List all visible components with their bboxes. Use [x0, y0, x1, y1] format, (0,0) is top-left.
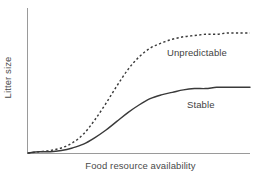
- y-axis-title: Litter size: [0, 0, 16, 155]
- chart-plot-area: [0, 0, 255, 180]
- y-axis-title-text: Litter size: [3, 57, 14, 99]
- curve-stable: [28, 87, 250, 153]
- x-axis-title: Food resource availability: [0, 160, 255, 171]
- series-label-unpredictable: Unpredictable: [167, 47, 227, 58]
- series-label-stable: Stable: [187, 99, 215, 110]
- chart-figure: Litter size Food resource availability U…: [0, 0, 255, 180]
